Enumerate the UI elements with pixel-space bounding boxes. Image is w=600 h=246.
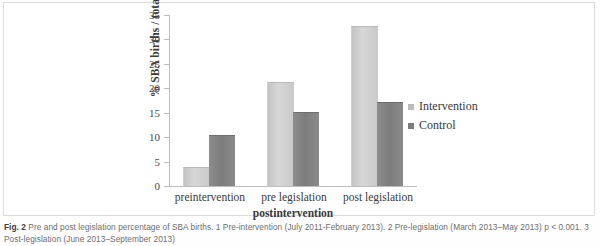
bar-intervention-preintervention[interactable] — [183, 167, 210, 186]
figure-caption: Fig. 2 Pre and post legislation percenta… — [4, 222, 596, 245]
bar-group-post-legislation — [351, 15, 409, 186]
y-axis-title-holder: % SBA births / total births — [116, 13, 136, 185]
y-tick-10: 10 — [138, 131, 160, 143]
y-tick-25: 25 — [138, 58, 160, 70]
chart-panel: % SBA births / total births 35 30 25 20 … — [3, 2, 595, 216]
x-tick-post-legislation: post legislation — [323, 191, 433, 203]
bar-group-pre-legislation — [267, 15, 325, 186]
bar-control-post-legislation[interactable] — [377, 102, 403, 186]
legend-item-intervention[interactable]: Intervention — [408, 97, 478, 116]
y-tick-20: 20 — [138, 82, 160, 94]
legend: Intervention Control — [408, 97, 478, 135]
legend-item-control[interactable]: Control — [408, 116, 478, 135]
bar-group-preintervention — [183, 15, 241, 186]
x-axis-title: postintervention — [169, 207, 417, 219]
legend-label-control: Control — [419, 118, 456, 133]
y-axis-tick-labels: 35 30 25 20 15 10 5 0 — [134, 3, 160, 246]
x-axis-line — [169, 186, 417, 187]
bar-intervention-post-legislation[interactable] — [351, 26, 378, 186]
legend-swatch-icon-intervention — [408, 104, 414, 110]
bar-intervention-pre-legislation[interactable] — [267, 82, 294, 186]
y-tick-30: 30 — [138, 33, 160, 45]
bar-control-preintervention[interactable] — [209, 135, 235, 186]
y-tick-5: 5 — [138, 156, 160, 168]
bar-control-pre-legislation[interactable] — [293, 112, 319, 186]
y-tick-15: 15 — [138, 107, 160, 119]
legend-swatch-icon-control — [408, 123, 414, 129]
figure-caption-text: Pre and post legislation percentage of S… — [4, 222, 589, 244]
y-tick-35: 35 — [138, 9, 160, 21]
plot-area: % SBA births / total births 35 30 25 20 … — [4, 3, 594, 215]
bar-series-group — [169, 15, 417, 186]
figure-label: Fig. 2 — [4, 222, 26, 232]
legend-label-intervention: Intervention — [419, 99, 478, 114]
figure-container: % SBA births / total births 35 30 25 20 … — [0, 0, 600, 246]
